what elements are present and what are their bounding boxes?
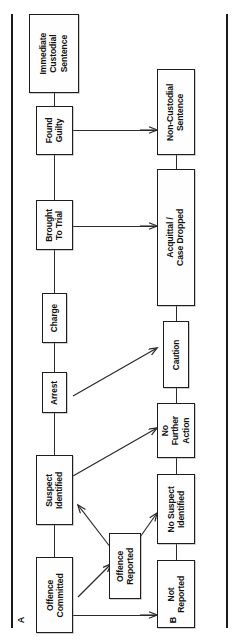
arrow-arrest-to-caution (73, 348, 157, 396)
node-non-custodial-sentence[interactable]: Non-Custodial Sentence (157, 69, 195, 155)
node-charge[interactable]: Charge (42, 293, 67, 343)
node-label: Arrest (50, 380, 60, 404)
arrow-offence-reported-to-suspect-identified (78, 505, 111, 548)
node-suspect-identified[interactable]: Suspect Identified (36, 455, 73, 525)
node-caution[interactable]: Caution (163, 321, 189, 388)
node-acquittal-case-dropped[interactable]: Acquittal / Case Dropped (157, 169, 195, 306)
node-offence-reported[interactable]: Offence Reported (109, 533, 141, 599)
node-label: Suspect Identified (44, 471, 65, 508)
node-label: Not Reported (166, 576, 187, 613)
node-label: Immediate Custodial Sentence (38, 33, 69, 75)
node-label: Acquittal / Case Dropped (166, 209, 187, 266)
node-label: Offence Committed (44, 573, 65, 617)
node-label: No Further Action (160, 416, 191, 445)
node-immediate-custodial-sentence[interactable]: Immediate Custodial Sentence (29, 14, 79, 93)
node-found-guilty[interactable]: Found Guilty (36, 106, 73, 155)
node-label: Brought To Trial (44, 209, 65, 242)
node-no-further-action[interactable]: No Further Action (157, 403, 195, 458)
node-arrest[interactable]: Arrest (42, 372, 67, 413)
arrow-offence-committed-to-offence-reported (78, 564, 111, 597)
node-label: Offence Reported (115, 548, 136, 585)
node-no-suspect-identified[interactable]: No Suspect Identified (157, 474, 195, 544)
panel-label-b: B (170, 615, 177, 625)
node-label: Caution (171, 339, 181, 369)
node-offence-committed[interactable]: Offence Committed (36, 557, 73, 633)
panel-label-a: A (18, 615, 25, 625)
node-label: Charge (50, 304, 60, 332)
node-label: Non-Custodial Sentence (166, 83, 187, 140)
node-label: No Suspect Identified (166, 486, 187, 532)
flowchart-canvas: Immediate Custodial Sentence Found Guilt… (0, 0, 242, 643)
node-label: Found Guilty (44, 118, 65, 144)
node-brought-to-trial[interactable]: Brought To Trial (36, 200, 73, 250)
arrow-suspect-identified-to-no-further-action (73, 428, 157, 476)
